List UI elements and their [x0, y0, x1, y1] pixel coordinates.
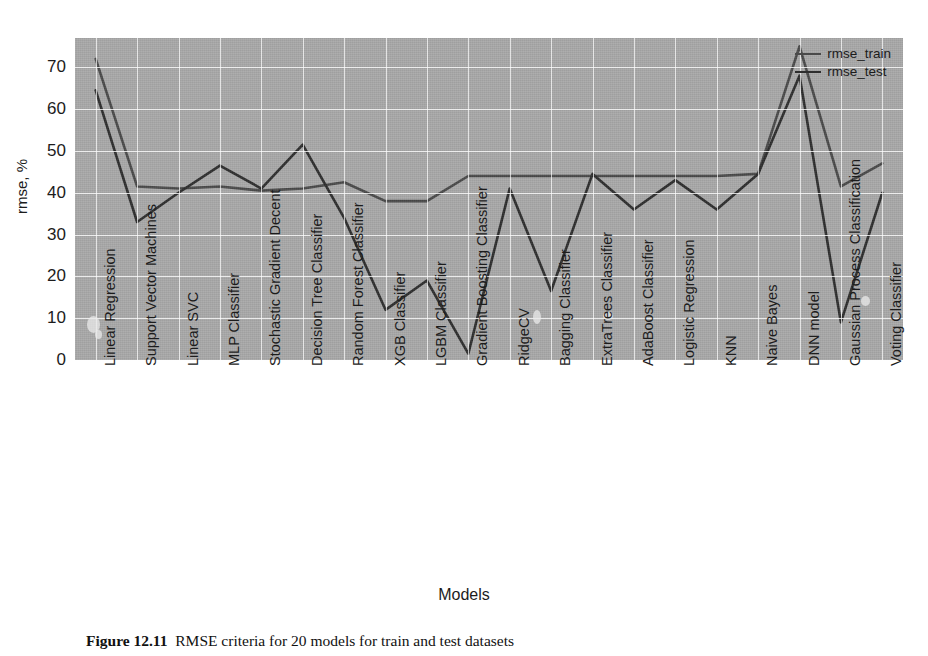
x-axis-tick-label: RidgeCV	[516, 308, 532, 366]
x-axis-tick-label: XGB Classifier	[392, 272, 408, 366]
x-axis-tick-label: AdaBoost Classifier	[640, 239, 656, 366]
legend-item-rmse-train: rmse_train	[795, 46, 891, 61]
x-axis-tick-label: KNN	[723, 335, 739, 366]
x-axis-label: Models	[0, 586, 928, 604]
x-axis-tick-label: ExtraTrees Classifier	[599, 232, 615, 366]
x-axis-tick-label: Voting Classifier	[888, 262, 904, 366]
x-axis-tick-label: Logistic Regression	[681, 239, 697, 366]
legend-item-rmse-test: rmse_test	[795, 64, 891, 79]
x-axis-tick-label: Gradient Boosting Classifier	[474, 186, 490, 366]
figure-caption: Figure 12.11 RMSE criteria for 20 models…	[86, 632, 846, 650]
x-axis-ticks: Linear RegressionSupport Vector Machines…	[0, 0, 928, 656]
legend-line-swatch-test	[795, 71, 821, 73]
x-axis-tick-label: Naive Bayes	[764, 285, 780, 366]
x-axis-tick-label: Bagging Classifier	[557, 249, 573, 366]
x-axis-tick-label: Gaussian Process Classification	[847, 159, 863, 366]
legend-label-rmse-test: rmse_test	[827, 64, 886, 79]
x-axis-tick-label: Linear SVC	[185, 292, 201, 366]
x-axis-tick-label: Random Forest Classifier	[350, 202, 366, 366]
legend: rmse_train rmse_test	[791, 44, 895, 81]
figure-rmse-criteria: rmse_train rmse_test 010203040506070 rms…	[0, 0, 928, 656]
x-axis-tick-label: LGBM Classifier	[433, 261, 449, 366]
x-axis-tick-label: Linear Regression	[102, 248, 118, 366]
x-axis-tick-label: Stochastic Gradient Decent	[267, 189, 283, 366]
figure-caption-label: Figure 12.11	[86, 632, 168, 649]
legend-label-rmse-train: rmse_train	[827, 46, 891, 61]
x-axis-tick-label: Decision Tree Classifier	[309, 214, 325, 366]
x-axis-tick-label: MLP Classifier	[226, 273, 242, 366]
x-axis-tick-label: Support Vector Machines	[143, 204, 159, 366]
legend-line-swatch-train	[795, 53, 821, 55]
x-axis-tick-label: DNN model	[806, 291, 822, 366]
figure-caption-text: RMSE criteria for 20 models for train an…	[175, 632, 514, 649]
